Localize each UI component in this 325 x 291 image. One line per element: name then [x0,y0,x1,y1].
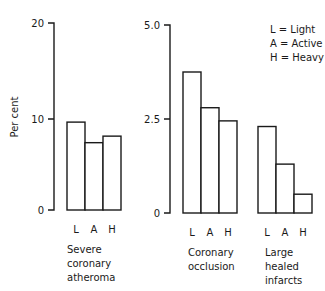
tick-label-5: 5.0 [144,20,160,31]
category-label: L [189,227,195,238]
legend-entry-active: A = Active [270,38,323,49]
category-label: H [108,224,116,235]
tick-label-20: 20 [31,18,44,29]
chart-canvas: 20 10 0 Per cent L A H Severe coronary a… [0,0,325,291]
bar-L [258,127,276,213]
tick-label-10: 10 [31,114,44,125]
tick-label-0: 0 [154,208,160,219]
bar-A [201,108,219,213]
panel-severe-coronary-atheroma [67,122,121,210]
category-label: H [299,227,307,238]
category-label: A [282,227,289,238]
legend-entry-heavy: H = Heavy [270,52,324,63]
panel-large-healed-infarcts [258,127,312,213]
group-label-line: Severe [67,244,102,255]
category-label: L [264,227,270,238]
bar-H [294,194,312,213]
group-label-line: occlusion [188,261,235,272]
group-label-line: infarcts [265,275,302,286]
panel-coronary-occlusion [183,72,237,213]
bar-L [67,122,85,210]
group-label-line: Large [265,247,293,258]
category-label: A [91,224,98,235]
tick-label-2-5: 2.5 [144,114,160,125]
bar-H [103,136,121,210]
group-label-line: atheroma [67,272,115,283]
right-y-axis: 5.0 2.5 0 [144,20,170,219]
bar-H [219,121,237,213]
group-label-line: Coronary [188,247,234,258]
group-label-line: coronary [67,258,111,269]
category-label: L [73,224,79,235]
bar-A [85,143,103,210]
category-label: A [207,227,214,238]
bar-A [276,164,294,213]
left-y-axis: 20 10 0 Per cent [9,18,54,216]
bar-L [183,72,201,213]
tick-label-0: 0 [38,205,44,216]
y-axis-label: Per cent [9,96,20,137]
legend-entry-light: L = Light [270,24,315,35]
legend: L = Light A = Active H = Heavy [270,24,324,63]
category-label: H [224,227,232,238]
group-label-line: healed [265,261,299,272]
